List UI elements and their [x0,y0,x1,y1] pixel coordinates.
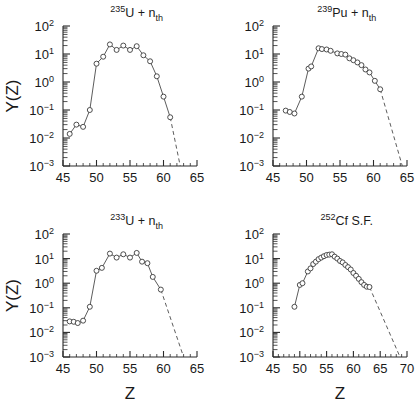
data-point [87,304,92,309]
x-tick-label: 45 [266,170,280,185]
data-point [81,124,86,129]
data-point [141,53,146,58]
panel-title: 239Pu + nth [317,4,376,23]
plot-panel-bottom-right: 10−310−210−1100101102455055606570252Cf S… [210,208,420,417]
data-point [367,285,372,290]
y-tick-label: 10−3 [29,158,54,174]
data-point [134,250,139,255]
y-tick-label: 101 [35,251,54,267]
y-tick-label: 10−1 [29,102,54,118]
dashed-extrapolation [380,89,402,166]
data-point [148,59,153,64]
x-tick-group: 455055606570 [266,351,414,376]
data-point [378,87,383,92]
data-point [328,48,333,53]
y-axis-label: Y(Z) [3,279,22,312]
data-point [292,304,297,309]
data-point [87,108,92,113]
y-tick-label: 102 [245,18,264,34]
data-point [367,70,372,75]
y-tick-labels: 10−310−210−1100101102 [239,18,264,174]
y-tick-group [63,234,70,357]
data-point [300,281,305,286]
y-tick-label: 100 [245,74,264,90]
x-tick-label: 55 [333,170,347,185]
data-markers [67,250,163,325]
x-tick-group: 4550556065 [56,160,204,185]
data-point [121,43,126,48]
data-point [150,274,155,279]
data-point [343,52,348,57]
x-axis-label: Z [125,384,135,403]
data-point [145,261,150,266]
plot-panel-top-left: 10−310−210−11001011024550556065235U + nt… [0,0,210,208]
x-tick-label: 45 [56,170,70,185]
data-point [121,252,126,257]
plot-svg: 10−310−210−11001011024550556065233U + nt… [0,208,210,417]
y-tick-label: 100 [35,74,54,90]
data-point [114,255,119,260]
y-tick-label: 10−2 [29,130,54,146]
x-tick-label: 55 [123,170,137,185]
data-point [81,318,86,323]
data-point [140,259,145,264]
panel-title: 233U + nth [110,212,163,231]
x-tick-label: 55 [319,361,333,376]
plot-svg: 10−310−210−1100101102455055606570252Cf S… [210,208,420,417]
y-tick-label: 10−2 [239,130,264,146]
x-tick-label: 70 [400,361,414,376]
x-tick-group: 4550556065 [266,160,414,185]
y-tick-label: 10−2 [239,324,264,340]
x-tick-label: 60 [346,361,360,376]
data-point [319,47,324,52]
x-tick-label: 65 [190,361,204,376]
x-tick-label: 50 [89,361,103,376]
x-tick-label: 60 [156,170,170,185]
fission-yield-figure: 10−310−210−11001011024550556065235U + nt… [0,0,420,417]
plot-svg: 10−310−210−11001011024550556065239Pu + n… [210,0,420,208]
y-tick-label: 10−1 [239,300,264,316]
plot-panel-top-right: 10−310−210−11001011024550556065239Pu + n… [210,0,420,208]
plot-panel-bottom-left: 10−310−210−11001011024550556065233U + nt… [0,208,210,417]
data-point [107,42,112,47]
data-point [134,44,139,49]
data-point [75,321,80,326]
data-point [67,131,72,136]
y-tick-label: 100 [245,275,264,291]
data-point [94,268,99,273]
y-tick-label: 100 [35,275,54,291]
dashed-extrapolation [170,117,180,166]
y-tick-label: 102 [35,18,54,34]
y-tick-label: 101 [245,251,264,267]
y-tick-label: 10−1 [239,102,264,118]
plot-svg: 10−310−210−11001011024550556065235U + nt… [0,0,210,208]
x-tick-label: 65 [190,170,204,185]
y-tick-label: 102 [35,226,54,242]
data-point [128,255,133,260]
y-tick-labels: 10−310−210−1100101102 [239,226,264,365]
x-tick-label: 65 [373,361,387,376]
x-tick-label: 55 [123,361,137,376]
data-point [158,287,163,292]
data-point [154,74,159,79]
x-tick-label: 60 [366,170,380,185]
data-point [94,61,99,66]
data-point [309,64,314,69]
x-tick-label: 50 [293,361,307,376]
data-point [128,47,133,52]
data-point [99,265,104,270]
x-tick-label: 60 [156,361,170,376]
y-tick-label: 101 [35,46,54,62]
x-tick-label: 45 [266,361,280,376]
y-tick-label: 101 [245,46,264,62]
x-tick-label: 50 [299,170,313,185]
axes [273,26,407,166]
data-point [114,47,119,52]
x-tick-group: 4550556065 [56,351,204,376]
data-curve [70,44,171,133]
x-tick-label: 50 [89,170,103,185]
y-axis-label: Y(Z) [3,79,22,112]
data-point [101,54,106,59]
y-tick-labels: 10−310−210−1100101102 [29,226,54,365]
y-tick-label: 10−2 [29,324,54,340]
